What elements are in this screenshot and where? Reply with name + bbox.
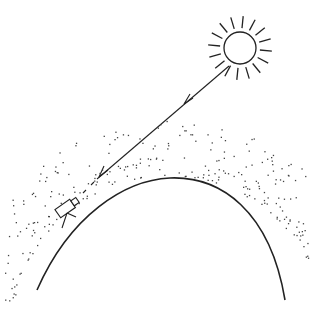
atmosphere-particle bbox=[39, 180, 40, 181]
atmosphere-particle bbox=[258, 182, 259, 183]
atmosphere-particle bbox=[88, 183, 89, 184]
atmosphere-particle bbox=[35, 196, 36, 197]
sun-ray bbox=[255, 28, 264, 36]
atmosphere-particle bbox=[283, 181, 284, 182]
atmosphere-particle bbox=[75, 145, 76, 146]
atmosphere-particle bbox=[9, 300, 10, 301]
atmosphere-particle bbox=[96, 184, 97, 185]
atmosphere-particle bbox=[99, 173, 100, 174]
atmosphere-particle bbox=[13, 200, 14, 201]
atmosphere-particle bbox=[259, 186, 260, 187]
atmosphere-particle bbox=[261, 204, 262, 205]
atmosphere-particle bbox=[5, 273, 6, 274]
atmosphere-particle bbox=[277, 217, 278, 218]
atmosphere-particle bbox=[56, 219, 57, 220]
atmosphere-particle bbox=[109, 144, 110, 145]
atmosphere-particle bbox=[14, 286, 15, 287]
atmosphere-particle bbox=[5, 300, 6, 301]
atmosphere-particle bbox=[296, 227, 297, 228]
atmosphere-particle bbox=[300, 239, 301, 240]
atmosphere-particle bbox=[48, 230, 49, 231]
atmosphere-particle bbox=[63, 162, 64, 163]
sun-ray bbox=[212, 33, 223, 39]
atmosphere-particle bbox=[114, 181, 115, 182]
atmosphere-particle bbox=[14, 213, 15, 214]
atmosphere-particle bbox=[216, 160, 217, 161]
atmosphere-particle bbox=[13, 279, 14, 280]
atmosphere-particle bbox=[140, 159, 141, 160]
atmosphere-particle bbox=[303, 246, 304, 247]
atmosphere-particle bbox=[212, 142, 213, 143]
sun-ray bbox=[246, 67, 249, 78]
atmosphere-particle bbox=[97, 181, 98, 182]
atmosphere-particle bbox=[50, 196, 51, 197]
atmosphere-particle bbox=[32, 253, 33, 254]
atmosphere-particle bbox=[109, 171, 110, 172]
atmosphere-particle bbox=[73, 187, 74, 188]
atmosphere-particle bbox=[112, 184, 113, 185]
atmosphere-particle bbox=[120, 168, 121, 169]
atmosphere-particle bbox=[51, 191, 52, 192]
sun-ray bbox=[220, 23, 228, 32]
atmosphere-particle bbox=[290, 198, 291, 199]
atmosphere-particle bbox=[179, 135, 180, 136]
atmosphere-particle bbox=[184, 130, 185, 131]
diagram-canvas bbox=[0, 0, 313, 309]
sun-ray bbox=[259, 39, 270, 42]
atmosphere-particle bbox=[160, 124, 161, 125]
atmosphere-particle bbox=[284, 219, 285, 220]
atmosphere-particle bbox=[159, 169, 160, 170]
atmosphere-particle bbox=[48, 216, 49, 217]
atmosphere-particle bbox=[191, 172, 192, 173]
sun-ray bbox=[249, 20, 255, 31]
atmosphere-particle bbox=[102, 170, 103, 171]
atmosphere-particle bbox=[212, 180, 213, 181]
atmosphere-particle bbox=[288, 223, 289, 224]
atmosphere-particle bbox=[194, 177, 195, 178]
atmosphere-particle bbox=[63, 194, 64, 195]
atmosphere-particle bbox=[305, 230, 306, 231]
atmosphere-particle bbox=[288, 175, 289, 176]
sun-ray bbox=[258, 57, 269, 63]
atmosphere-particle bbox=[149, 165, 150, 166]
atmosphere-particle bbox=[203, 177, 204, 178]
atmosphere-particle bbox=[134, 179, 135, 180]
atmosphere-particle bbox=[307, 256, 308, 257]
atmosphere-particle bbox=[150, 159, 151, 160]
atmosphere-particle bbox=[127, 176, 128, 177]
atmosphere-particle bbox=[284, 199, 285, 200]
atmosphere-particle bbox=[210, 149, 211, 150]
atmosphere-particle bbox=[249, 189, 250, 190]
atmosphere-particle bbox=[52, 224, 53, 225]
atmosphere-particle bbox=[216, 182, 217, 183]
atmosphere-particle bbox=[286, 228, 287, 229]
atmosphere-particle bbox=[17, 235, 18, 236]
atmosphere-particle bbox=[247, 196, 248, 197]
atmosphere-particle bbox=[37, 245, 38, 246]
atmosphere-particle bbox=[83, 198, 84, 199]
atmosphere-particle bbox=[225, 173, 226, 174]
atmosphere-particle bbox=[59, 152, 60, 153]
atmosphere-particle bbox=[192, 134, 193, 135]
atmosphere-particle bbox=[139, 138, 140, 139]
atmosphere-particle bbox=[74, 192, 75, 193]
atmosphere-particle bbox=[158, 128, 159, 129]
atmosphere-particle bbox=[59, 193, 60, 194]
atmosphere-particle bbox=[249, 151, 250, 152]
sun-ray bbox=[231, 17, 234, 28]
atmosphere-particle bbox=[214, 173, 215, 174]
atmosphere-particle bbox=[142, 143, 143, 144]
atmosphere-particle bbox=[221, 137, 222, 138]
atmosphere-particle bbox=[302, 231, 303, 232]
atmosphere-particle bbox=[276, 203, 277, 204]
atmosphere-particle bbox=[108, 182, 109, 183]
atmosphere-particle bbox=[307, 243, 308, 244]
atmosphere-particle bbox=[228, 173, 229, 174]
atmosphere-particle bbox=[33, 230, 34, 231]
atmosphere-particle bbox=[268, 197, 269, 198]
atmosphere-particle bbox=[223, 170, 224, 171]
atmosphere-particle bbox=[249, 195, 250, 196]
atmosphere-particle bbox=[224, 158, 225, 159]
atmosphere-particles bbox=[5, 121, 309, 302]
atmosphere-particle bbox=[49, 224, 50, 225]
